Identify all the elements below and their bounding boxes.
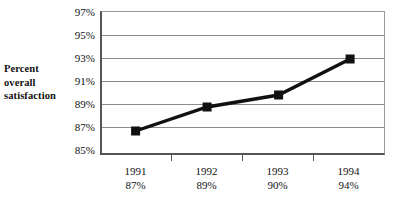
y-tick-label-87: 87% — [39, 122, 95, 133]
x-axis-tick — [313, 155, 314, 161]
x-axis-label-year: 1992 — [171, 165, 242, 179]
gridline — [102, 104, 384, 105]
x-axis-label-group-1993: 1993 90% — [242, 165, 313, 192]
line-chart: Percent overall satisfaction 97% 95% 93%… — [0, 0, 394, 202]
x-axis-tick — [171, 155, 172, 161]
x-axis-label-year: 1994 — [313, 165, 384, 179]
gridline — [102, 81, 384, 82]
x-axis-label-value: 90% — [242, 179, 313, 193]
gridline — [102, 127, 384, 128]
x-axis-label-year: 1993 — [242, 165, 313, 179]
y-tick-label-91: 91% — [39, 76, 95, 87]
x-axis-label-year: 1991 — [100, 165, 171, 179]
x-axis-tick — [242, 155, 243, 161]
x-axis-label-value: 94% — [313, 179, 384, 193]
x-axis-label-group-1994: 1994 94% — [313, 165, 384, 192]
y-tick-label-89: 89% — [39, 99, 95, 110]
gridline — [102, 58, 384, 59]
x-axis-label-group-1992: 1992 89% — [171, 165, 242, 192]
x-axis-label-value: 87% — [100, 179, 171, 193]
y-tick-label-95: 95% — [39, 30, 95, 41]
y-tick-label-97: 97% — [39, 7, 95, 18]
x-axis-label-group-1991: 1991 87% — [100, 165, 171, 192]
y-tick-label-85: 85% — [39, 145, 95, 156]
gridline — [102, 35, 384, 36]
x-axis-label-value: 89% — [171, 179, 242, 193]
y-tick-label-93: 93% — [39, 53, 95, 64]
plot-area — [100, 11, 385, 155]
y-axis-title-line-1: Percent — [4, 62, 86, 76]
